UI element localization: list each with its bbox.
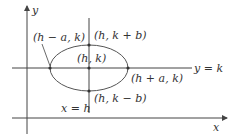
line-y-equals-k-label: y = k (193, 62, 223, 75)
line-x-equals-h-label: x = h (61, 102, 91, 115)
point-right-label: (h + a, k) (131, 72, 183, 85)
point-bottom-label: (h, k − b) (94, 92, 147, 105)
point-top-label: (h, k + b) (94, 29, 147, 42)
point-top (87, 43, 90, 46)
x-axis-label: x (213, 121, 220, 134)
point-center (87, 66, 90, 69)
point-center-label: (h, k) (77, 52, 106, 65)
left-point-leader (42, 44, 50, 66)
point-bottom (87, 89, 90, 92)
point-left (48, 66, 51, 69)
point-left-label: (h − a, k) (33, 31, 85, 44)
y-axis-label: y (31, 4, 39, 17)
ellipse-diagram: y x y = k x = h (h − a, k) (h, k + b) (h… (0, 0, 229, 137)
point-right (126, 66, 129, 69)
